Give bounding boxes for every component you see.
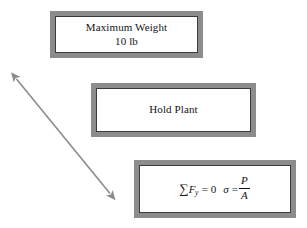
box-maximum-weight-line2: 10 lb — [86, 35, 167, 49]
box-hold-plant-text: Hold Plant — [149, 103, 197, 117]
equation2-variable: σ — [223, 183, 228, 195]
box-hold-plant-inner: Hold Plant — [96, 88, 251, 132]
clipped-header-text: — ——— —— — [2, 0, 72, 3]
equation1-relation: = 0 — [202, 183, 216, 195]
figure-canvas: — ——— —— Maximum Weight 10 lb Hold Plant… — [0, 0, 307, 228]
equation2-relation: = — [232, 183, 238, 195]
fraction-p-over-a: P A — [239, 175, 250, 201]
fraction-denominator: A — [239, 190, 250, 202]
box-equations: ∑ F y = 0 σ = P A — [134, 160, 296, 218]
equation1-subscript: y — [195, 188, 198, 197]
box-maximum-weight: Maximum Weight 10 lb — [50, 11, 203, 58]
box-hold-plant: Hold Plant — [91, 83, 256, 137]
box-maximum-weight-inner: Maximum Weight 10 lb — [55, 16, 198, 53]
box-maximum-weight-text: Maximum Weight 10 lb — [86, 21, 167, 49]
summation-symbol: ∑ — [179, 181, 188, 197]
box-maximum-weight-line1: Maximum Weight — [86, 21, 167, 35]
equation-group: ∑ F y = 0 σ = P A — [179, 176, 250, 202]
box-equations-inner: ∑ F y = 0 σ = P A — [139, 165, 291, 213]
fraction-numerator: P — [239, 175, 250, 187]
